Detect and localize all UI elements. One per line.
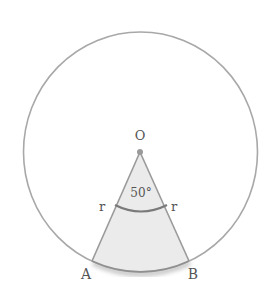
- point-label-B: B: [188, 266, 198, 282]
- radius-label-right: r: [171, 199, 178, 214]
- circle-sector-diagram: O 50° r r A B: [0, 0, 275, 299]
- center-label: O: [135, 128, 146, 143]
- angle-label: 50°: [130, 186, 151, 200]
- point-label-A: A: [80, 266, 92, 282]
- radius-label-left: r: [99, 199, 106, 214]
- center-point: [137, 149, 143, 155]
